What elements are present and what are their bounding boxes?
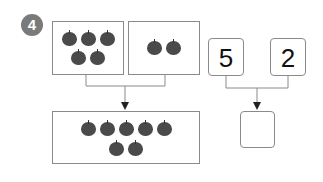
apple-icon bbox=[127, 140, 144, 157]
left-apple-group-box bbox=[52, 21, 124, 75]
apple-icon bbox=[89, 49, 106, 66]
apple-icon bbox=[70, 49, 87, 66]
apple-icon bbox=[80, 120, 97, 137]
apple-icon bbox=[137, 120, 154, 137]
apple-icon bbox=[165, 39, 182, 56]
apple-row bbox=[53, 30, 123, 47]
apple-row bbox=[53, 140, 199, 157]
apple-row bbox=[53, 120, 199, 137]
apple-icon bbox=[108, 140, 125, 157]
apple-row bbox=[53, 49, 123, 66]
apple-row bbox=[129, 39, 199, 56]
number-box-right: 2 bbox=[270, 38, 306, 76]
answer-box[interactable] bbox=[240, 111, 275, 148]
combined-apple-group-box bbox=[52, 111, 200, 164]
arrow-down-icon bbox=[121, 102, 129, 110]
apple-icon bbox=[118, 120, 135, 137]
right-apple-group-box bbox=[128, 21, 200, 75]
apple-icon bbox=[156, 120, 173, 137]
apple-icon bbox=[99, 30, 116, 47]
apple-icon bbox=[80, 30, 97, 47]
apple-icon bbox=[99, 120, 116, 137]
number-box-left: 5 bbox=[208, 38, 244, 76]
apple-icon bbox=[146, 39, 163, 56]
apple-icon bbox=[61, 30, 78, 47]
arrow-down-icon bbox=[253, 102, 261, 110]
